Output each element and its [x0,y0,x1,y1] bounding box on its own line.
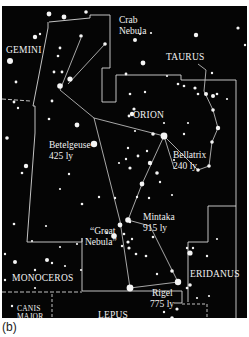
constellation-label-orion: ORION [133,110,164,120]
constellation-label-eridanus: ERIDANUS [190,269,240,279]
star-chart: GEMINI TAURUS ORION MONOCEROS ERIDANUS C… [2,6,247,318]
constellation-label-lepus: LEPUS [98,310,128,318]
object-label-great-nebula-line1: “Great [90,226,115,236]
object-label-great-nebula-line2: Nebula” [85,237,117,247]
figure-caption: (b) [2,320,17,334]
star-distance-rigel: 775 ly [150,299,174,309]
object-label-crab-line2: Nebula [119,26,146,36]
star-distance-bellatrix: 240 ly [173,161,197,171]
star-distance-betelgeuse: 425 ly [49,151,73,161]
constellation-label-canis-major-line2: MAJOR [17,313,43,318]
object-label-crab-line1: Crab [119,15,137,25]
constellation-label-monoceros: MONOCEROS [12,273,73,283]
constellation-label-gemini: GEMINI [6,45,42,55]
star-label-betelgeuse: Betelgeuse [49,140,91,150]
star-distance-mintaka: 915 ly [143,223,167,233]
star-label-mintaka: Mintaka [143,212,175,222]
constellation-label-taurus: TAURUS [166,52,204,62]
star-label-bellatrix: Bellatrix [173,150,206,160]
star-label-rigel: Rigel [152,288,173,298]
